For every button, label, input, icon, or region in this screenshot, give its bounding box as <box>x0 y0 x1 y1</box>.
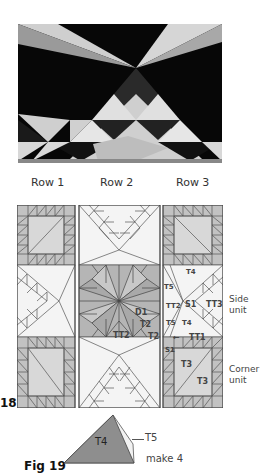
label-tt1: TT1 <box>189 333 206 342</box>
arrow-icon: ← <box>173 333 180 342</box>
fig-19-t4-label: T4 <box>95 436 107 447</box>
fig-19-title: Fig 19 <box>24 455 66 474</box>
quilt-photo-image <box>18 24 222 163</box>
label-s1-corner: S1 <box>165 346 175 354</box>
fig-19-leader-line <box>132 439 144 440</box>
fig-19-t5-label: T5 <box>145 432 157 443</box>
label-tt2-center: TT2 <box>113 331 130 340</box>
label-t4-bottom: T4 <box>182 319 192 327</box>
label-t3-b: T3 <box>197 377 208 386</box>
label-t4-top: T4 <box>186 268 196 276</box>
label-t5-left: T5 <box>164 283 174 291</box>
label-tt2-left: TT2 <box>166 302 181 310</box>
row-1-label: Row 1 <box>31 176 64 189</box>
row-3-label: Row 3 <box>176 176 209 189</box>
corner-unit-label: Corner unit <box>229 364 259 386</box>
quilt-photo <box>18 24 222 163</box>
label-d1: D1 <box>135 308 147 317</box>
label-t5-bottom: T5 <box>166 319 176 327</box>
fig-18-number: 18 <box>0 396 17 410</box>
fig-19-note: make 4 <box>146 453 183 464</box>
label-tt3: TT3 <box>206 300 223 309</box>
side-unit-label: Side unit <box>229 294 248 316</box>
label-t2-b: T2 <box>148 332 159 341</box>
row-2-label: Row 2 <box>100 176 133 189</box>
label-t3-a: T3 <box>181 360 192 369</box>
label-t2-a: T2 <box>140 320 151 329</box>
label-s1-mid: S1 <box>185 300 196 309</box>
